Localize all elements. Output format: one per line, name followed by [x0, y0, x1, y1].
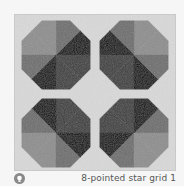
octagon-top-left [22, 21, 90, 89]
figure-caption: 8-pointed star grid 1 [81, 172, 176, 185]
octagon-bottom-left [22, 99, 90, 167]
star-grid-figure [0, 0, 184, 172]
lightbulb-glyph [16, 175, 23, 183]
octagon-bottom-right [100, 99, 168, 167]
octagon-top-right [100, 21, 168, 89]
caption-row: 8-pointed star grid 1 [0, 172, 184, 186]
lightbulb-icon[interactable] [14, 173, 25, 184]
